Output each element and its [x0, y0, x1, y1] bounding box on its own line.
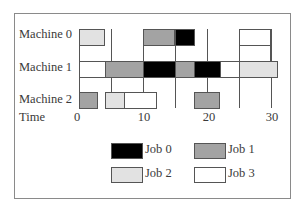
legend-swatch-job3: [194, 167, 226, 183]
x-tick-0: 0: [74, 110, 80, 125]
x-axis-label: Time: [19, 110, 45, 125]
task-m1-job3: [79, 61, 106, 78]
task-m1-job3-b: [220, 61, 240, 78]
x-tick-10: 10: [138, 110, 151, 125]
legend-label-job1: Job 1: [228, 142, 255, 157]
task-m0-job3-lower: [239, 45, 271, 62]
task-m0-job0: [175, 29, 195, 46]
task-m0-job2: [79, 29, 105, 46]
x-tick-20: 20: [203, 110, 216, 125]
legend-label-job2: Job 2: [145, 166, 172, 181]
legend-label-job0: Job 0: [145, 142, 172, 157]
task-m0-job1: [143, 29, 175, 46]
task-m1-job1-b: [175, 61, 195, 78]
task-m2-job1-b: [194, 92, 220, 109]
legend-swatch-job0: [111, 143, 143, 159]
row-label-machine-0: Machine 0: [19, 27, 72, 42]
legend-label-job3: Job 3: [228, 166, 255, 181]
task-m1-job1: [105, 61, 144, 78]
task-m2-job3: [124, 92, 157, 109]
task-m1-job0-b: [194, 61, 221, 78]
row-label-machine-2: Machine 2: [19, 92, 72, 107]
task-m1-job2: [239, 61, 278, 78]
task-m2-job2: [105, 92, 125, 109]
legend-swatch-job1: [194, 143, 226, 159]
row-label-machine-1: Machine 1: [19, 60, 72, 75]
x-tick-30: 30: [266, 110, 279, 125]
task-m0-job3: [239, 29, 271, 46]
legend-swatch-job2: [111, 167, 143, 183]
task-m2-job1: [79, 92, 98, 109]
task-m1-job0: [143, 61, 176, 78]
